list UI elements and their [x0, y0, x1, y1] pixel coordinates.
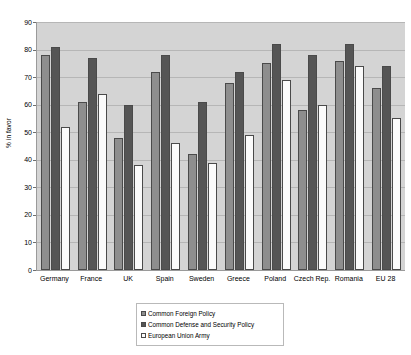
bar-chart: % in favor 0102030405060708090 GermanyFr… — [0, 0, 411, 355]
bar — [382, 66, 391, 270]
bar — [61, 127, 70, 270]
legend-swatch-icon — [141, 311, 146, 316]
y-axis-tick-label: 20 — [6, 211, 32, 218]
bar — [208, 163, 217, 270]
y-axis-tick-mark — [33, 105, 36, 106]
bar — [372, 88, 381, 270]
bar — [51, 47, 60, 270]
legend-swatch-icon — [141, 322, 146, 327]
bar — [392, 118, 401, 270]
y-axis-tick-mark — [33, 132, 36, 133]
y-axis-tick-label: 10 — [6, 239, 32, 246]
x-axis-category-label: EU 28 — [367, 274, 404, 283]
bar — [151, 72, 160, 270]
y-axis-tick-mark — [33, 50, 36, 51]
y-axis-tick-label: 0 — [6, 267, 32, 274]
x-axis-category-label: Poland — [257, 274, 294, 283]
bar — [171, 143, 180, 270]
bar — [272, 44, 281, 270]
bar-group — [258, 22, 295, 270]
bar — [78, 102, 87, 270]
bar — [225, 83, 234, 270]
x-axis-category-label: Germany — [36, 274, 73, 283]
bar — [188, 154, 197, 270]
legend: Common Foreign Policy Common Defense and… — [136, 303, 284, 346]
bar — [41, 55, 50, 270]
y-axis-tick-label: 30 — [6, 184, 32, 191]
legend-label: European Union Army — [148, 332, 210, 339]
x-axis-category-label: France — [73, 274, 110, 283]
bar — [245, 135, 254, 270]
bar-group — [368, 22, 405, 270]
bar-group — [74, 22, 111, 270]
bar-group — [111, 22, 148, 270]
bar — [98, 94, 107, 270]
legend-item-common-defense-and-security-policy: Common Defense and Security Policy — [141, 319, 278, 330]
legend-item-european-union-army: European Union Army — [141, 330, 278, 341]
y-axis-tick-mark — [33, 187, 36, 188]
y-axis-tick-label: 50 — [6, 129, 32, 136]
x-axis-category-labels: GermanyFranceUKSpainSwedenGreecePolandCz… — [36, 274, 404, 286]
bar — [308, 55, 317, 270]
y-axis-tick-label: 80 — [6, 46, 32, 53]
bar-group — [331, 22, 368, 270]
bar-group — [184, 22, 221, 270]
bar-group — [295, 22, 332, 270]
y-axis-tick-label: 60 — [6, 101, 32, 108]
bar-group — [147, 22, 184, 270]
bar — [198, 102, 207, 270]
x-axis-category-label: Romania — [330, 274, 367, 283]
bar — [134, 165, 143, 270]
bar — [298, 110, 307, 270]
bar — [282, 80, 291, 270]
bar — [235, 72, 244, 270]
bar — [318, 105, 327, 270]
bar — [262, 63, 271, 270]
bar — [345, 44, 354, 270]
bar — [88, 58, 97, 270]
x-axis-category-label: Greece — [220, 274, 257, 283]
y-axis-tick-mark — [33, 160, 36, 161]
y-axis-tick-mark — [33, 270, 36, 271]
x-axis-category-label: Spain — [146, 274, 183, 283]
x-axis-category-label: UK — [110, 274, 147, 283]
y-axis-tick-label: 40 — [6, 156, 32, 163]
legend-swatch-icon — [141, 333, 146, 338]
bar — [114, 138, 123, 270]
x-axis-category-label: Sweden — [183, 274, 220, 283]
bar-group — [37, 22, 74, 270]
legend-label: Common Foreign Policy — [148, 310, 215, 317]
plot-area — [36, 22, 405, 271]
bar — [124, 105, 133, 270]
bar — [355, 66, 364, 270]
bar-groups — [37, 22, 405, 270]
bar — [161, 55, 170, 270]
y-axis-tick-mark — [33, 77, 36, 78]
legend-item-common-foreign-policy: Common Foreign Policy — [141, 308, 278, 319]
y-axis-tick-mark — [33, 242, 36, 243]
bar-group — [221, 22, 258, 270]
x-axis-category-label: Czech Rep. — [294, 274, 331, 283]
y-axis-tick-mark — [33, 22, 36, 23]
y-axis-tick-label: 90 — [6, 19, 32, 26]
bar — [335, 61, 344, 270]
y-axis-tick-mark — [33, 215, 36, 216]
legend-label: Common Defense and Security Policy — [148, 321, 254, 328]
y-axis-tick-label: 70 — [6, 74, 32, 81]
